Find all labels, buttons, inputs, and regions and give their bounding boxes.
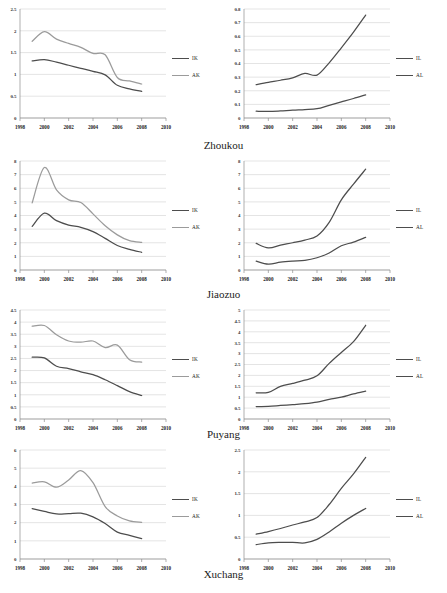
svg-text:1: 1 [238, 395, 241, 400]
legend-label: IK [192, 497, 198, 502]
panel-title-xuchang: Xuchang [0, 568, 447, 580]
legend-swatch [172, 516, 189, 517]
svg-text:0: 0 [238, 557, 241, 562]
legend-item: AL [396, 67, 446, 84]
line-plot-svg: 00.511.522.51998200020022004200620082010 [0, 0, 170, 142]
legend-item: IL [396, 50, 446, 67]
svg-text:2000: 2000 [263, 276, 274, 282]
line-plot-svg: 00.511.522.533.544.519982000200220042006… [0, 301, 170, 443]
svg-text:0.3: 0.3 [234, 75, 241, 80]
svg-text:2008: 2008 [137, 276, 148, 282]
svg-text:6: 6 [14, 448, 17, 453]
svg-text:4: 4 [14, 213, 17, 218]
legend-item: AK [172, 67, 222, 84]
svg-text:0: 0 [238, 268, 241, 273]
legend-label: AK [192, 374, 200, 379]
svg-text:0.5: 0.5 [10, 405, 17, 410]
chart-legend: ILAL [396, 351, 446, 385]
svg-text:1.5: 1.5 [234, 491, 241, 496]
svg-text:4: 4 [238, 213, 241, 218]
svg-text:0.5: 0.5 [234, 48, 241, 53]
svg-text:0: 0 [14, 116, 17, 121]
svg-text:1.5: 1.5 [10, 380, 17, 385]
legend-label: AL [416, 514, 423, 519]
svg-text:2.5: 2.5 [234, 448, 241, 453]
svg-text:2010: 2010 [161, 276, 172, 282]
svg-text:2: 2 [238, 470, 241, 475]
chart-row-jiaozuo: 0123456781998200020022004200620082010 IK… [0, 152, 447, 294]
plot-area: 0123456781998200020022004200620082010 [224, 152, 394, 294]
legend-label: IL [416, 56, 421, 61]
svg-text:2: 2 [238, 241, 241, 246]
legend-swatch [396, 75, 413, 76]
svg-text:1998: 1998 [239, 124, 250, 130]
legend-item: AL [396, 219, 446, 236]
legend-swatch [396, 227, 413, 228]
legend-label: AK [192, 225, 200, 230]
svg-text:0.6: 0.6 [234, 34, 241, 39]
svg-text:0.5: 0.5 [10, 94, 17, 99]
svg-text:2006: 2006 [112, 124, 123, 130]
svg-text:2: 2 [14, 368, 17, 373]
svg-text:2000: 2000 [263, 124, 274, 130]
svg-text:3: 3 [14, 502, 17, 507]
svg-text:0: 0 [14, 268, 17, 273]
svg-text:2002: 2002 [64, 124, 75, 130]
legend-label: AL [416, 73, 423, 78]
plot-area: 00.511.522.51998200020022004200620082010 [224, 441, 394, 583]
svg-text:2004: 2004 [312, 276, 323, 282]
svg-text:2: 2 [14, 29, 17, 34]
plot-area: 00.511.522.533.544.519982000200220042006… [0, 301, 170, 443]
svg-text:1: 1 [14, 539, 17, 544]
svg-text:5: 5 [14, 200, 17, 205]
legend-swatch [172, 58, 189, 59]
svg-text:1.5: 1.5 [10, 50, 17, 55]
svg-text:4: 4 [238, 330, 241, 335]
svg-text:2008: 2008 [137, 124, 148, 130]
legend-swatch [396, 516, 413, 517]
svg-text:0.2: 0.2 [234, 89, 241, 94]
chart-panel-zhoukou-capital: 00.511.522.51998200020022004200620082010… [0, 0, 223, 142]
chart-panel-jiaozuo-capital: 0123456781998200020022004200620082010 IK… [0, 152, 223, 294]
legend-label: AL [416, 225, 423, 230]
line-plot-svg: 01234561998200020022004200620082010 [0, 441, 170, 583]
line-plot-svg: 00.511.522.51998200020022004200620082010 [224, 441, 394, 583]
svg-text:1: 1 [14, 72, 17, 77]
legend-label: IL [416, 357, 421, 362]
svg-text:1998: 1998 [15, 124, 26, 130]
svg-text:0: 0 [14, 417, 17, 422]
chart-panel-puyang-capital: 00.511.522.533.544.519982000200220042006… [0, 301, 223, 443]
chart-panel-xuchang-labor: 00.511.522.51998200020022004200620082010… [224, 441, 447, 583]
svg-text:2006: 2006 [336, 124, 347, 130]
svg-text:3: 3 [238, 351, 241, 356]
svg-text:7: 7 [14, 172, 17, 177]
svg-text:4: 4 [14, 320, 17, 325]
svg-text:2010: 2010 [385, 124, 396, 130]
plot-area: 0123456781998200020022004200620082010 [0, 152, 170, 294]
chart-row-xuchang: 01234561998200020022004200620082010 IKAK… [0, 441, 447, 583]
svg-text:3: 3 [14, 227, 17, 232]
svg-text:1: 1 [238, 513, 241, 518]
legend-item: IL [396, 202, 446, 219]
svg-text:2002: 2002 [288, 276, 299, 282]
svg-text:1: 1 [14, 393, 17, 398]
plot-area: 00.511.522.533.544.551998200020022004200… [224, 301, 394, 443]
legend-label: AL [416, 374, 423, 379]
svg-text:0.7: 0.7 [234, 20, 241, 25]
svg-text:1998: 1998 [239, 276, 250, 282]
legend-label: AK [192, 514, 200, 519]
svg-text:2002: 2002 [288, 124, 299, 130]
panel-title-jiaozuo: Jiaozuo [0, 288, 447, 300]
chart-legend: ILAL [396, 491, 446, 525]
plot-area: 00.511.522.51998200020022004200620082010 [0, 0, 170, 142]
legend-item: IK [172, 202, 222, 219]
legend-swatch [172, 499, 189, 500]
svg-text:2010: 2010 [385, 276, 396, 282]
legend-item: AK [172, 368, 222, 385]
svg-text:3: 3 [14, 344, 17, 349]
svg-text:2004: 2004 [88, 124, 99, 130]
legend-swatch [396, 499, 413, 500]
svg-text:0: 0 [14, 557, 17, 562]
svg-text:3.5: 3.5 [234, 341, 241, 346]
svg-text:5: 5 [238, 308, 241, 313]
